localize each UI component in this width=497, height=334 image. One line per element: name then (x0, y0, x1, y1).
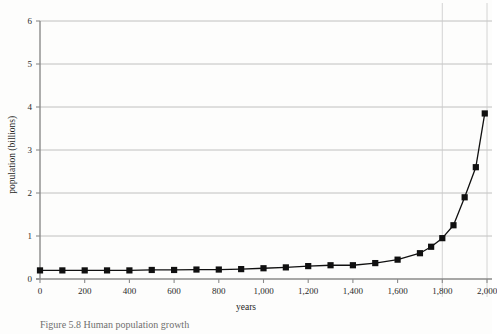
x-tick-label: 1,800 (432, 287, 452, 296)
data-point-marker (59, 267, 65, 273)
plot-area: 012345602004006008001,0001,2001,4001,600… (0, 0, 492, 300)
data-point-marker (428, 244, 434, 250)
line-chart-canvas (0, 0, 492, 300)
data-point-marker (372, 260, 378, 266)
y-tick-label: 1 (6, 232, 32, 241)
data-point-marker (82, 267, 88, 273)
data-point-marker (439, 235, 445, 241)
x-tick-label: 1,600 (387, 287, 407, 296)
x-tick-label: 400 (123, 287, 137, 296)
x-tick-label: 600 (167, 287, 181, 296)
x-tick-label: 1,000 (253, 287, 273, 296)
y-tick-label: 6 (6, 17, 32, 26)
x-tick-label: 800 (212, 287, 226, 296)
data-point-marker (283, 264, 289, 270)
data-point-marker (216, 266, 222, 272)
data-point-marker (305, 263, 311, 269)
data-point-marker (260, 265, 266, 271)
data-point-marker (193, 266, 199, 272)
data-point-marker (395, 257, 401, 263)
x-tick-label: 1,400 (343, 287, 363, 296)
data-point-marker (171, 267, 177, 273)
data-point-marker (350, 262, 356, 268)
y-tick-label: 5 (6, 60, 32, 69)
data-point-marker (462, 194, 468, 200)
data-point-marker (327, 262, 333, 268)
data-point-marker (450, 222, 456, 228)
data-point-marker (482, 110, 488, 116)
data-point-marker (37, 267, 43, 273)
x-axis-title: years (0, 303, 492, 313)
data-line (40, 113, 485, 270)
x-tick-label: 0 (38, 287, 43, 296)
data-point-marker (104, 267, 110, 273)
x-tick-label: 1,200 (298, 287, 318, 296)
figure-caption: Figure 5.8 Human population growth (40, 319, 480, 332)
x-tick-label: 2,000 (477, 287, 497, 296)
data-point-marker (126, 267, 132, 273)
y-tick-label: 0 (6, 275, 32, 284)
data-point-marker (417, 250, 423, 256)
data-point-marker (473, 164, 479, 170)
x-tick-label: 200 (78, 287, 92, 296)
data-point-marker (149, 267, 155, 273)
data-point-marker (238, 266, 244, 272)
y-axis-title: population (billions) (8, 100, 18, 210)
